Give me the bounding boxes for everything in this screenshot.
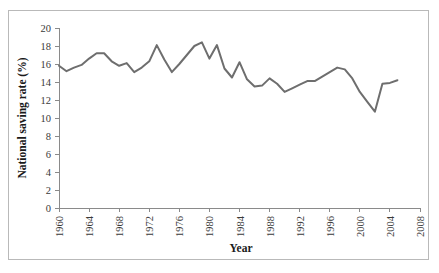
x-tick-label: 1960: [54, 216, 65, 237]
x-axis-ticks: 1960196419681972197619801984198819921996…: [54, 208, 426, 237]
x-axis-title: Year: [230, 242, 253, 254]
y-tick-label: 16: [41, 59, 52, 70]
y-tick-label: 6: [46, 149, 51, 160]
chart-figure-frame: 02468101214161820 1960196419681972197619…: [8, 10, 429, 260]
chart-axes: [59, 28, 420, 208]
x-tick-label: 2008: [415, 216, 426, 237]
x-tick-label: 1980: [204, 216, 215, 237]
y-tick-label: 4: [46, 167, 52, 178]
x-tick-label: 2000: [355, 216, 366, 237]
y-tick-label: 18: [41, 41, 52, 52]
y-axis-title: National saving rate (%): [16, 57, 29, 178]
y-tick-label: 20: [41, 23, 52, 34]
x-tick-label: 1996: [325, 216, 336, 237]
y-tick-label: 2: [46, 185, 51, 196]
y-axis-ticks: 02468101214161820: [41, 23, 60, 214]
x-tick-label: 2004: [385, 215, 396, 237]
x-tick-label: 1976: [174, 216, 185, 237]
y-tick-label: 10: [41, 113, 52, 124]
y-tick-label: 14: [41, 77, 52, 88]
y-tick-label: 0: [46, 203, 51, 214]
national-saving-rate-line-chart: 02468101214161820 1960196419681972197619…: [9, 11, 430, 261]
x-tick-label: 1968: [114, 216, 125, 237]
x-tick-label: 1964: [84, 215, 95, 237]
x-tick-label: 1988: [265, 216, 276, 237]
x-tick-label: 1972: [144, 216, 155, 237]
y-tick-label: 12: [41, 95, 52, 106]
x-tick-label: 1992: [295, 216, 306, 237]
chart-plot-area: [59, 42, 397, 111]
x-tick-label: 1984: [235, 215, 246, 237]
series-line-national-saving-rate: [59, 42, 397, 111]
y-tick-label: 8: [46, 131, 51, 142]
